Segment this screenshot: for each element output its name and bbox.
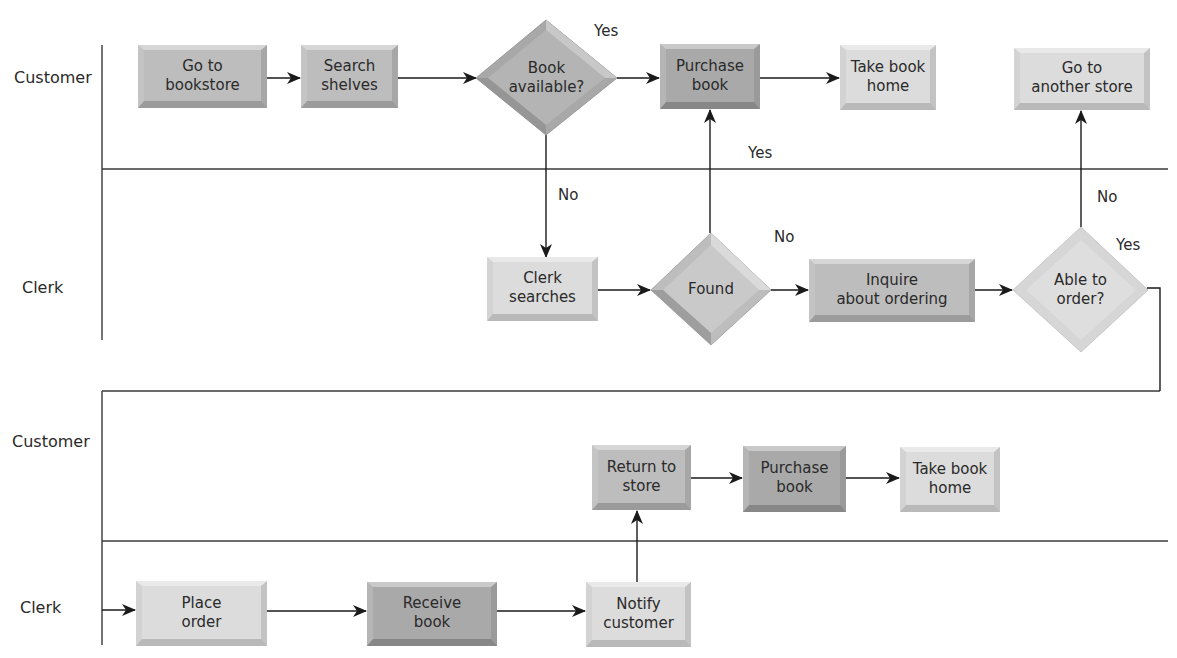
process-purchase-book-bottom-label: Purchase book — [760, 459, 828, 497]
process-take-book-home-bottom-label: Take book home — [913, 460, 988, 498]
process-take-book-home-top[interactable]: Take book home — [840, 45, 936, 110]
process-go-to-another-store-label: Go to another store — [1031, 59, 1132, 97]
process-go-to-another-store[interactable]: Go to another store — [1014, 48, 1150, 110]
process-place-order-label: Place order — [182, 594, 222, 632]
process-return-to-store[interactable]: Return to store — [592, 445, 691, 510]
process-go-to-bookstore-label: Go to bookstore — [165, 57, 240, 95]
process-search-shelves-label: Search shelves — [321, 57, 378, 95]
edge-label-found-no: No — [774, 228, 794, 246]
process-notify-customer-label: Notify customer — [603, 595, 674, 633]
process-search-shelves[interactable]: Search shelves — [301, 45, 398, 108]
decision-found-label: Found — [651, 233, 771, 345]
edge-label-found-yes: Yes — [748, 144, 772, 162]
edge-label-able-to-order-yes: Yes — [1116, 236, 1140, 254]
decision-found[interactable]: Found — [651, 233, 771, 345]
process-purchase-book-top-label: Purchase book — [676, 57, 744, 95]
process-go-to-bookstore[interactable]: Go to bookstore — [138, 45, 267, 108]
process-clerk-searches-label: Clerk searches — [509, 269, 576, 307]
process-purchase-book-bottom[interactable]: Purchase book — [743, 446, 846, 512]
process-inquire-about-ordering-label: Inquire about ordering — [836, 271, 947, 309]
process-place-order[interactable]: Place order — [136, 581, 267, 646]
edge-label-book-available-yes: Yes — [594, 22, 618, 40]
connector-able-yes — [1147, 288, 1160, 391]
process-clerk-searches[interactable]: Clerk searches — [487, 257, 598, 321]
process-take-book-home-top-label: Take book home — [851, 58, 926, 96]
process-return-to-store-label: Return to store — [607, 458, 677, 496]
process-receive-book[interactable]: Receive book — [367, 582, 497, 646]
process-purchase-book-top[interactable]: Purchase book — [660, 44, 760, 109]
edge-label-book-available-no: No — [558, 186, 578, 204]
process-take-book-home-bottom[interactable]: Take book home — [900, 447, 1000, 512]
process-receive-book-label: Receive book — [403, 594, 462, 632]
process-inquire-about-ordering[interactable]: Inquire about ordering — [809, 259, 975, 322]
process-notify-customer[interactable]: Notify customer — [586, 582, 691, 647]
edge-label-able-to-order-no: No — [1097, 188, 1117, 206]
